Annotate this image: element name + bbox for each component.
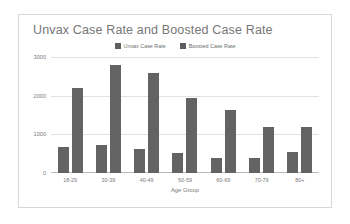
bar-group: 18-29 xyxy=(51,57,89,173)
y-axis-tick-label: 2000 xyxy=(34,93,46,99)
bar-unvax[interactable] xyxy=(172,153,183,173)
x-axis-tick-label: 60-69 xyxy=(216,177,230,183)
bar-group: 40-49 xyxy=(128,57,166,173)
legend-label-boosted: Boosted Case Rate xyxy=(189,43,236,49)
chart-figure: Unvax Case Rate and Boosted Case Rate Un… xyxy=(18,14,332,208)
bar-boosted[interactable] xyxy=(301,127,312,173)
y-axis-tick-label: 0 xyxy=(43,170,46,176)
bar-unvax[interactable] xyxy=(58,147,69,173)
bar-unvax[interactable] xyxy=(249,158,260,173)
y-axis-tick-label: 1000 xyxy=(34,131,46,137)
x-axis-tick-label: 80+ xyxy=(295,177,304,183)
y-axis-tick-label: 3000 xyxy=(34,54,46,60)
bar-group: 70-79 xyxy=(242,57,280,173)
bar-boosted[interactable] xyxy=(263,127,274,173)
x-axis-tick-label: 30-39 xyxy=(102,177,116,183)
bar-group: 50-59 xyxy=(166,57,204,173)
legend-swatch-icon xyxy=(115,43,121,49)
x-axis-title: Age Group xyxy=(51,187,319,193)
plot-area: 0100020003000 18-2930-3940-4950-5960-697… xyxy=(51,57,319,173)
bar-group: 60-69 xyxy=(204,57,242,173)
x-axis-tick-label: 70-79 xyxy=(255,177,269,183)
bar-groups: 18-2930-3940-4950-5960-6970-7980+ xyxy=(51,57,319,173)
bar-boosted[interactable] xyxy=(186,98,197,173)
x-axis-tick-label: 18-29 xyxy=(63,177,77,183)
legend-item-boosted: Boosted Case Rate xyxy=(180,43,236,49)
bar-unvax[interactable] xyxy=(96,145,107,173)
bar-unvax[interactable] xyxy=(134,149,145,173)
bar-unvax[interactable] xyxy=(287,152,298,173)
bar-group: 30-39 xyxy=(89,57,127,173)
x-axis-tick-label: 50-59 xyxy=(178,177,192,183)
bar-boosted[interactable] xyxy=(225,110,236,173)
legend-item-unvax: Unvax Case Rate xyxy=(115,43,166,49)
chart-title: Unvax Case Rate and Boosted Case Rate xyxy=(33,23,273,37)
bar-unvax[interactable] xyxy=(211,158,222,173)
bar-boosted[interactable] xyxy=(110,65,121,173)
legend-swatch-icon xyxy=(180,43,186,49)
bar-boosted[interactable] xyxy=(72,88,83,173)
bar-boosted[interactable] xyxy=(148,73,159,173)
chart-legend: Unvax Case Rate Boosted Case Rate xyxy=(19,43,331,49)
x-axis-tick-label: 40-49 xyxy=(140,177,154,183)
legend-label-unvax: Unvax Case Rate xyxy=(124,43,166,49)
bar-group: 80+ xyxy=(281,57,319,173)
